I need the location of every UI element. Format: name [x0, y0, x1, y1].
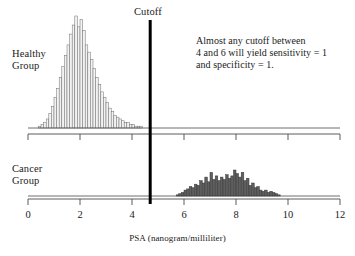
histogram-bar — [70, 34, 73, 128]
histogram-bar — [233, 170, 236, 196]
histogram-bar — [132, 124, 135, 128]
histogram-bar — [101, 92, 104, 128]
histogram-bar — [200, 181, 203, 196]
histogram-bar — [93, 68, 96, 128]
histogram-bar — [210, 172, 213, 196]
histogram-bar — [272, 192, 275, 196]
psa-distribution-figure: Healthy Group Cancer Group Cutoff Almost… — [0, 0, 355, 256]
histogram-bar — [98, 85, 101, 128]
histogram-bar — [267, 192, 270, 196]
x-tick-label: 12 — [335, 209, 346, 220]
histogram-bar — [54, 97, 57, 128]
histogram-bar — [67, 45, 70, 128]
histogram-bar — [215, 176, 218, 196]
histogram-bar — [249, 185, 252, 196]
x-axis-title: PSA (nanogram/milliliter) — [0, 233, 355, 243]
histogram-bar — [207, 182, 210, 196]
histogram-bar — [44, 123, 47, 128]
bottom-axis — [28, 196, 340, 205]
histogram-bar — [192, 188, 195, 196]
histogram-bar — [239, 177, 242, 196]
histogram-bar — [57, 88, 60, 128]
histogram-bar — [231, 176, 234, 196]
histogram-bar — [96, 77, 99, 128]
annotation-note: Almost any cutoff between 4 and 6 will y… — [196, 35, 327, 72]
healthy-group-label: Healthy Group — [12, 48, 46, 71]
histogram-bar — [213, 179, 216, 196]
histogram-bar — [75, 16, 78, 128]
x-tick-label: 8 — [233, 209, 238, 220]
histogram-bar — [114, 115, 117, 128]
histogram-bar — [226, 175, 229, 196]
histogram-bar — [62, 67, 65, 128]
histogram-bar — [124, 123, 127, 128]
histogram-bar — [189, 187, 192, 196]
histogram-bar — [228, 178, 231, 196]
histogram-bar — [197, 185, 200, 196]
cancer-group-label: Cancer Group — [12, 163, 42, 186]
histogram-bar — [202, 183, 205, 196]
histogram-bar — [64, 56, 67, 128]
cutoff-label: Cutoff — [134, 6, 162, 17]
histogram-bar — [80, 20, 83, 128]
histogram-bar — [265, 190, 268, 196]
histogram-bar — [181, 192, 184, 196]
histogram-bar — [220, 177, 223, 196]
histogram-bar — [46, 119, 49, 128]
histogram-bar — [254, 188, 257, 196]
histogram-bar — [90, 59, 93, 128]
histogram-bar — [85, 45, 88, 128]
x-tick-label: 2 — [77, 209, 82, 220]
histogram-bar — [241, 172, 244, 196]
healthy-histogram — [38, 16, 142, 128]
histogram-bar — [236, 174, 239, 196]
histogram-bar — [246, 178, 249, 196]
histogram-bar — [111, 112, 114, 128]
histogram-bar — [83, 30, 86, 128]
x-tick-label: 0 — [25, 209, 30, 220]
histogram-bar — [129, 124, 132, 128]
histogram-bar — [194, 184, 197, 196]
histogram-bar — [116, 117, 119, 128]
histogram-bar — [223, 179, 226, 196]
histogram-bar — [244, 181, 247, 196]
histogram-bar — [259, 190, 262, 196]
histogram-bar — [51, 106, 54, 128]
top-axis — [28, 128, 340, 140]
histogram-bar — [205, 177, 208, 196]
histogram-bar — [270, 191, 273, 196]
x-tick-label: 6 — [181, 209, 186, 220]
histogram-bar — [103, 97, 106, 128]
x-tick-label: 4 — [129, 209, 134, 220]
histogram-bar — [127, 123, 130, 128]
histogram-bar — [257, 187, 260, 196]
histogram-bar — [119, 119, 122, 128]
histogram-bar — [59, 77, 62, 128]
histogram-bar — [109, 108, 112, 128]
histogram-bar — [262, 191, 265, 196]
histogram-bar — [49, 114, 52, 128]
histogram-bar — [252, 183, 255, 196]
histogram-bar — [218, 181, 221, 196]
histogram-bar — [88, 52, 91, 128]
cancer-histogram — [176, 170, 280, 196]
histogram-bar — [122, 121, 125, 128]
x-tick-label: 10 — [283, 209, 294, 220]
histogram-bar — [184, 190, 187, 196]
histogram-bar — [187, 189, 190, 196]
histogram-bar — [41, 124, 44, 128]
histogram-bar — [106, 103, 109, 128]
histogram-bar — [72, 25, 75, 128]
histogram-bar — [77, 27, 80, 128]
